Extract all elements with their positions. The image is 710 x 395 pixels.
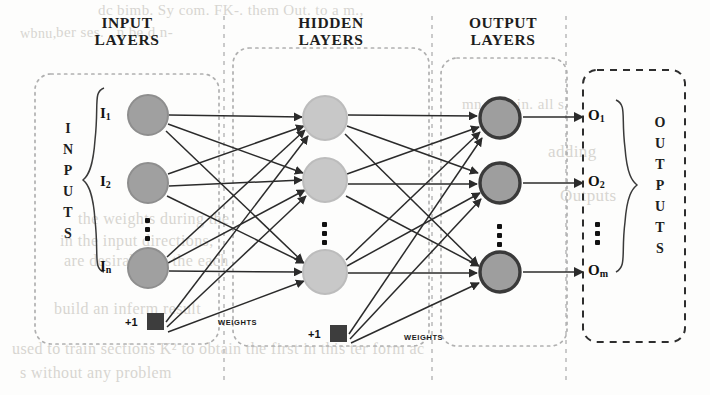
hidden-neuron-h2 <box>303 158 347 202</box>
conn-i1-h1 <box>169 115 302 117</box>
bias-node-hidden <box>330 325 347 342</box>
outputs-vertical-label: OUTPUTS <box>650 112 670 259</box>
output-label-om: Om <box>588 262 608 279</box>
output-label-om-text: O <box>588 262 600 278</box>
output-neuron-o1 <box>480 98 520 138</box>
input-label-i1: I1 <box>100 105 111 122</box>
hidden-neuron-h1 <box>303 96 347 140</box>
input-label-i1-sub: 1 <box>106 111 111 122</box>
neural-network-diagram: dc bimb. Sy com. FK-. them Out. to a m.,… <box>0 0 710 395</box>
outputs-brace <box>616 100 637 272</box>
hidden-layers-title-line2: LAYERS <box>256 31 406 48</box>
output-neuron-om <box>480 252 520 292</box>
outputs-vertical-letter-3: P <box>650 175 670 196</box>
output-layers-title-line2: LAYERS <box>428 31 578 48</box>
conn-h1-o1 <box>348 115 477 116</box>
weights-label-2: WEIGHTS <box>404 333 443 342</box>
outputs-terminal-ellipsis <box>595 222 601 245</box>
hidden-layers-title-line1: HIDDEN <box>256 14 406 31</box>
connections-hidden-to-output <box>345 115 480 273</box>
input-label-i2: I2 <box>100 173 111 190</box>
output-ellipsis <box>497 224 503 247</box>
section-dividers <box>224 16 566 382</box>
connections-bias2-to-output <box>349 138 482 343</box>
conn-in-h3 <box>169 271 302 272</box>
connections-input-to-hidden <box>166 115 305 272</box>
outputs-vertical-letter-1: U <box>650 133 670 154</box>
input-neurons <box>128 95 168 288</box>
input-label-in-sub: n <box>106 264 112 275</box>
conn-b1-h1 <box>166 136 308 322</box>
input-label-i2-text: I <box>100 173 106 189</box>
output-label-o1-text: O <box>588 107 600 123</box>
outputs-vertical-letter-4: U <box>650 196 670 217</box>
input-label-in: In <box>100 258 111 275</box>
conn-in-h2 <box>168 190 305 263</box>
weights-label-1: WEIGHTS <box>218 318 257 327</box>
input-label-i1-text: I <box>100 105 106 121</box>
bias-label-input: +1 <box>125 316 138 328</box>
connections-output-to-terminal <box>523 117 583 272</box>
hidden-ellipsis <box>322 222 328 245</box>
outputs-vertical-letter-2: T <box>650 154 670 175</box>
output-label-o2-sub: 2 <box>600 179 605 190</box>
inputs-vertical-letter-0: I <box>58 118 78 139</box>
output-label-o2: O2 <box>588 173 605 190</box>
conn-i1-h2 <box>168 124 303 173</box>
hidden-layers-title: HIDDEN LAYERS <box>256 14 406 48</box>
inputs-vertical-letter-5: S <box>58 223 78 244</box>
outputs-vertical-letter-0: O <box>650 112 670 133</box>
network-canvas <box>0 0 710 395</box>
input-label-i2-sub: 2 <box>106 179 111 190</box>
conn-b2-o2 <box>350 199 481 339</box>
outputs-vertical-letter-6: S <box>650 238 670 259</box>
input-layers-title-line2: LAYERS <box>52 31 202 48</box>
input-layers-title-line1: INPUT <box>52 14 202 31</box>
conn-i2-h2 <box>169 180 302 186</box>
output-label-o2-text: O <box>588 173 600 189</box>
input-neuron-i2 <box>128 163 168 203</box>
inputs-vertical-letter-4: T <box>58 202 78 223</box>
conn-h3-o2 <box>347 193 480 266</box>
input-neuron-in <box>128 248 168 288</box>
output-label-o1-sub: 1 <box>600 113 605 124</box>
input-label-in-text: I <box>100 258 106 274</box>
input-ellipsis <box>145 218 151 241</box>
output-layers-title: OUTPUT LAYERS <box>428 14 578 48</box>
output-layers-title-line1: OUTPUT <box>428 14 578 31</box>
conn-h1-o2 <box>347 126 478 173</box>
outputs-vertical-letter-5: T <box>650 217 670 238</box>
inputs-vertical-letter-3: U <box>58 181 78 202</box>
bias-label-hidden: +1 <box>308 328 321 340</box>
inputs-vertical-label: INPUTS <box>58 118 78 244</box>
output-neurons <box>480 98 520 292</box>
bias-node-input <box>147 313 164 330</box>
input-layers-title: INPUT LAYERS <box>52 14 202 48</box>
output-neuron-o2 <box>480 163 520 203</box>
output-label-o1: O1 <box>588 107 605 124</box>
inputs-vertical-letter-1: N <box>58 139 78 160</box>
hidden-neurons <box>303 96 347 294</box>
inputs-vertical-letter-2: P <box>58 160 78 181</box>
output-label-om-sub: m <box>600 268 608 279</box>
conn-b1-h2 <box>167 196 306 327</box>
conn-b2-o1 <box>349 138 482 334</box>
hidden-neuron-h3 <box>303 250 347 294</box>
connections-bias1-to-hidden <box>166 136 308 332</box>
input-neuron-i1 <box>128 95 168 135</box>
